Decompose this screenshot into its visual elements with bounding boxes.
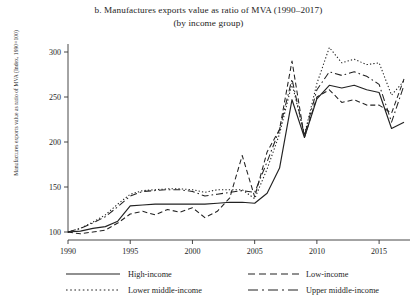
legend-label-lower-middle-income: Lower middle-income [128, 286, 246, 295]
x-tick-label: 1990 [60, 247, 76, 256]
y-tick-label: 300 [49, 48, 61, 57]
legend-swatch-high-income [0, 270, 128, 278]
x-tick-label: 2005 [247, 247, 263, 256]
chart-plot-area: 100150200250300 199019952000200520102015 [0, 0, 417, 306]
legend-label-high-income: High-income [128, 270, 246, 279]
y-tick-label: 150 [49, 183, 61, 192]
legend-label-upper-middle-income: Upper middle-income [306, 286, 416, 295]
y-axis-ticks: 100150200250300 [49, 48, 68, 237]
x-tick-label: 1995 [122, 247, 138, 256]
chart-legend: High-income Low-income Lower middle-inco… [0, 266, 417, 298]
x-tick-label: 2010 [309, 247, 325, 256]
chart-figure: b. Manufactures exports value as ratio o… [0, 0, 417, 306]
y-tick-label: 250 [49, 93, 61, 102]
x-tick-label: 2000 [184, 247, 200, 256]
y-tick-label: 100 [49, 228, 61, 237]
legend-swatch-upper-middle-income [246, 286, 306, 294]
y-tick-label: 200 [49, 138, 61, 147]
chart-series-group [68, 48, 404, 234]
x-axis-ticks: 199019952000200520102015 [60, 240, 387, 256]
legend-label-low-income: Low-income [306, 270, 416, 279]
series-line-upper-middle-income [68, 72, 404, 232]
x-tick-label: 2015 [371, 247, 387, 256]
legend-swatch-lower-middle-income [0, 286, 128, 294]
series-line-high-income [68, 85, 404, 232]
series-line-lower-middle-income [68, 48, 404, 233]
series-line-low-income [68, 61, 404, 234]
legend-swatch-low-income [246, 270, 306, 278]
